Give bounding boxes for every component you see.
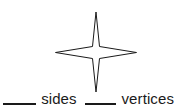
label-vertices: vertices [122,90,174,107]
star-outline-shape [56,12,137,92]
question-line: sides vertices [0,81,174,107]
label-sides: sides [41,90,77,107]
worksheet-page: sides vertices [0,0,174,107]
blank-vertices-input[interactable] [85,88,116,105]
blank-sides-input[interactable] [3,88,36,105]
